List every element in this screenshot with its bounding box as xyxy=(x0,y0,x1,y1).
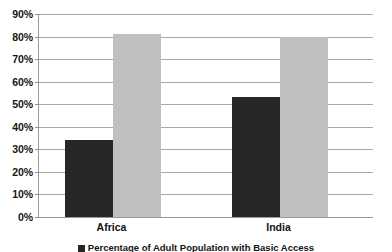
y-axis-tick-label: 0% xyxy=(0,212,33,222)
bar-india-series-2 xyxy=(280,37,328,217)
y-axis-tick-label: 20% xyxy=(0,167,33,177)
legend-label: Percentage of Adult Population with Basi… xyxy=(88,243,314,252)
bar-group-container xyxy=(39,14,373,217)
plot-area xyxy=(38,14,373,218)
x-axis: AfricaIndia xyxy=(38,221,372,237)
y-axis-tick-mark xyxy=(35,217,39,218)
gridline xyxy=(39,217,373,218)
y-axis-tick-label: 60% xyxy=(0,77,33,87)
x-axis-tick-label-india: India xyxy=(231,221,327,233)
y-axis-tick-label: 90% xyxy=(0,9,33,19)
bar-chart: 0%10%20%30%40%50%60%70%80%90% AfricaIndi… xyxy=(0,0,392,252)
bar-africa-series-1 xyxy=(65,140,113,217)
y-axis-tick-label: 50% xyxy=(0,99,33,109)
bar-india-series-1 xyxy=(232,97,280,217)
y-axis-tick-label: 70% xyxy=(0,54,33,64)
y-axis-tick-label: 80% xyxy=(0,32,33,42)
y-axis-tick-label: 30% xyxy=(0,144,33,154)
legend-swatch-icon xyxy=(78,245,85,252)
y-axis: 0%10%20%30%40%50%60%70%80%90% xyxy=(0,0,33,252)
x-axis-tick-label-africa: Africa xyxy=(64,221,160,233)
bar-africa-series-2 xyxy=(113,34,161,217)
chart-legend: Percentage of Adult Population with Basi… xyxy=(0,243,392,252)
y-axis-tick-label: 40% xyxy=(0,122,33,132)
legend-entry-series-1: Percentage of Adult Population with Basi… xyxy=(78,243,314,252)
y-axis-tick-label: 10% xyxy=(0,189,33,199)
